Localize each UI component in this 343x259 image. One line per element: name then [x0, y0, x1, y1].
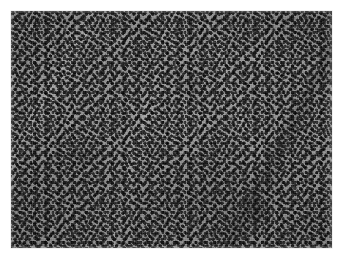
micrograph-figure [0, 0, 343, 259]
plate-edge-fade-layer [11, 11, 332, 248]
micrograph-image [11, 11, 332, 248]
